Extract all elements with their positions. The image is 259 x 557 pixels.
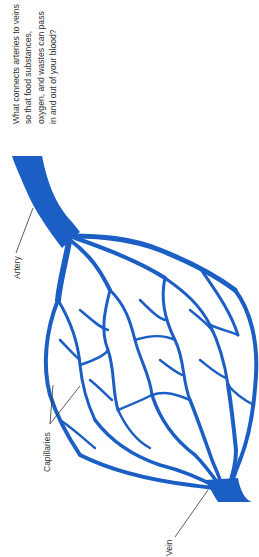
capillary-network bbox=[46, 236, 256, 490]
vein-label: Vein bbox=[164, 539, 174, 556]
vein-leader-line bbox=[175, 490, 208, 537]
artery-label: Artery bbox=[12, 256, 22, 279]
vein bbox=[205, 478, 252, 502]
question-text: What connects arteries to veins so that … bbox=[10, 4, 59, 124]
capillaries-label: Capillaries bbox=[42, 432, 52, 472]
artery-leader-line bbox=[16, 208, 33, 253]
